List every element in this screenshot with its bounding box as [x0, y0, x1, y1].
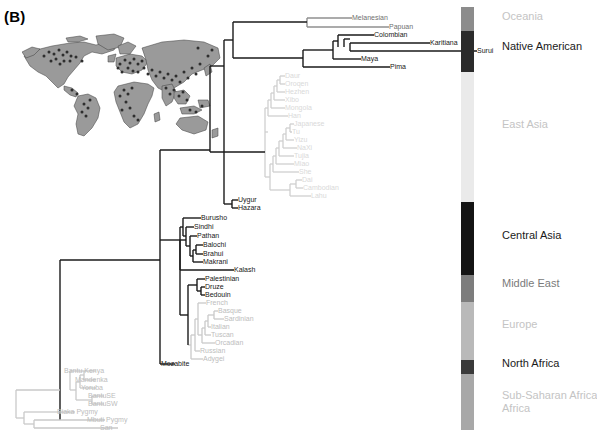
- tree-tip-label: Karitiana: [430, 39, 458, 46]
- tree-tip-label: Daur: [285, 72, 300, 79]
- tree-tip-label: Pathan: [197, 232, 219, 239]
- region-label: Central Asia: [502, 229, 561, 242]
- tree-tip-label: Druze: [205, 283, 224, 290]
- tree-tip-label: Cambodian: [303, 184, 339, 191]
- tree-tip-label: Mbuti Pygmy: [87, 416, 127, 423]
- tree-tip-label: BantuSE: [88, 392, 116, 399]
- region-label: Sub-Saharan AfricaAfrica: [502, 389, 597, 415]
- tree-tip-label: Dai: [302, 176, 313, 183]
- tree-tip-label: Xibo: [285, 96, 299, 103]
- tree-tip-label: Yoruba: [81, 384, 103, 391]
- tree-tip-label: Bedouin: [205, 291, 231, 298]
- tree-tip-label: Hezhen: [285, 88, 309, 95]
- region-label: Native American: [502, 40, 582, 53]
- tree-tip-label: Biaka Pygmy: [57, 408, 98, 415]
- tree-tip-label: Basque: [218, 307, 242, 314]
- tree-branches-middle-east: [193, 279, 205, 295]
- tree-tip-label: Brahui: [203, 250, 223, 257]
- tree-tip-label: Pima: [390, 63, 406, 70]
- tree-tip-label: BantuSW: [88, 400, 118, 407]
- tree-tip-label: Melanesian: [352, 14, 388, 21]
- tree-tip-label: Colombian: [374, 31, 407, 38]
- tree-tip-label: French: [206, 299, 228, 306]
- tree-tip-label: Mongola: [285, 104, 312, 111]
- tree-tip-label: Maya: [361, 55, 378, 62]
- tree-tip-label: Adygei: [203, 355, 224, 362]
- tree-tip-label: Tujia: [294, 152, 309, 159]
- tree-tip-label: Tu: [292, 128, 300, 135]
- colourbar-segment: [461, 31, 474, 72]
- tree-tip-label: Sardinian: [224, 315, 254, 322]
- region-label-line1: Sub-Saharan Africa: [502, 389, 597, 402]
- tree-tip-label: Mandenka: [75, 376, 108, 383]
- tree-tip-label: Kalash: [234, 266, 255, 273]
- tree-tip-label: Burusho: [201, 214, 227, 221]
- tree-tip-label: Palestinian: [205, 275, 239, 282]
- tree-tip-label: Yizu: [294, 136, 307, 143]
- tree-tip-label: Hazara: [238, 204, 261, 211]
- tree-tip-label: Surui: [477, 47, 493, 54]
- region-colour-bar: [461, 7, 474, 430]
- tree-tip-label: Miao: [294, 160, 309, 167]
- colourbar-segment: [461, 360, 474, 374]
- region-label: North Africa: [502, 357, 559, 370]
- region-label: Oceania: [502, 10, 543, 23]
- region-label: East Asia: [502, 118, 548, 131]
- tree-tip-label: Sindhi: [194, 223, 213, 230]
- tree-tip-label: NaXi: [297, 144, 312, 151]
- tree-tip-label: Lahu: [311, 192, 327, 199]
- colourbar-segment: [461, 7, 474, 31]
- tree-tip-label: Orcadian: [215, 339, 243, 346]
- region-label: Europe: [502, 318, 537, 331]
- tree-tip-label: Italian: [211, 323, 230, 330]
- region-label: Middle East: [502, 277, 559, 290]
- region-label-line2: Africa: [502, 402, 597, 415]
- tree-tip-label: Mozabite: [161, 360, 189, 367]
- tree-tip-label: Russian: [200, 347, 225, 354]
- tree-tip-label: Makrani: [203, 258, 228, 265]
- colourbar-segment: [461, 374, 474, 430]
- tree-tip-label: Japanese: [294, 120, 324, 127]
- colourbar-segment: [461, 302, 474, 360]
- colourbar-segment: [461, 202, 474, 275]
- tree-tip-label: She: [299, 168, 311, 175]
- tree-tip-label: Balochi: [203, 241, 226, 248]
- colourbar-segment: [461, 72, 474, 202]
- tree-tip-label: Papuan: [389, 23, 413, 30]
- tree-tip-label: Tuscan: [211, 331, 234, 338]
- tree-tip-label: San: [100, 424, 112, 430]
- tree-tip-label: Bantu Kenya: [64, 367, 104, 374]
- colourbar-segment: [461, 275, 474, 302]
- tree-tip-label: Han: [288, 112, 301, 119]
- tree-tip-label: Oroqen: [285, 80, 308, 87]
- tree-tip-label: Uygur: [238, 196, 257, 203]
